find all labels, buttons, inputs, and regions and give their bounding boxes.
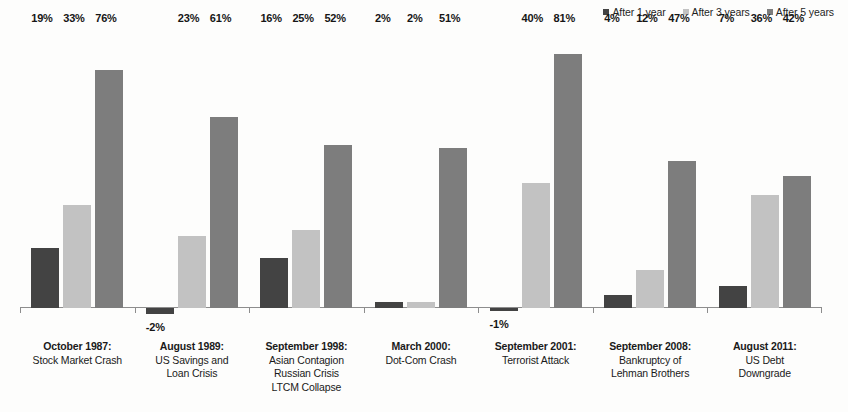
category-label-line: Terrorist Attack [478, 354, 593, 368]
bar[interactable]: 76% [95, 70, 123, 308]
bar-group: -2%23%61% [135, 26, 250, 308]
bar[interactable]: 4% [604, 295, 632, 308]
bar-slot: -2% [146, 26, 174, 308]
bar[interactable]: 52% [324, 145, 352, 308]
bar-value-label: 61% [210, 12, 231, 24]
bar-group: 4%12%47% [593, 26, 708, 308]
bar[interactable]: 81% [554, 54, 582, 308]
bar-slot: 52% [324, 26, 352, 308]
bar[interactable]: -1% [490, 308, 518, 311]
category-label: March 2000:Dot-Com Crash [364, 340, 479, 367]
bar-group-bars: -1%40%81% [478, 26, 593, 308]
bar[interactable]: 51% [439, 148, 467, 308]
bar-value-label: 36% [751, 12, 772, 24]
bar[interactable]: 12% [636, 270, 664, 308]
bar[interactable]: 61% [210, 117, 238, 308]
bar-value-label: -1% [490, 318, 509, 330]
bar-group: 7%36%42% [707, 26, 822, 308]
category-label: August 1989:US Savings andLoan Crisis [135, 340, 250, 381]
bar-slot: 42% [783, 26, 811, 308]
bar-value-label: 12% [636, 12, 657, 24]
bar-slot: -1% [490, 26, 518, 308]
category-label: September 2008:Bankruptcy ofLehman Broth… [593, 340, 708, 381]
bar-group: 16%25%52% [249, 26, 364, 308]
bar-slot: 36% [751, 26, 779, 308]
category-label-line: Bankruptcy of [593, 354, 708, 368]
axis-tick [20, 308, 21, 313]
bar-group-bars: 19%33%76% [20, 26, 135, 308]
bar-value-label: 40% [522, 12, 543, 24]
bar-group: 19%33%76% [20, 26, 135, 308]
bar-group: 2%2%51% [364, 26, 479, 308]
category-label-line: Stock Market Crash [20, 354, 135, 368]
bar-group-bars: 16%25%52% [249, 26, 364, 308]
bar-slot: 81% [554, 26, 582, 308]
category-label: September 2001:Terrorist Attack [478, 340, 593, 367]
category-label-line: US Debt [707, 354, 822, 368]
category-label-title: August 2011: [707, 340, 822, 354]
bar[interactable]: 36% [751, 195, 779, 308]
category-label-line: Russian Crisis [249, 367, 364, 381]
bar-slot: 33% [63, 26, 91, 308]
axis-tick [249, 308, 250, 313]
bar[interactable]: 40% [522, 183, 550, 308]
bar-slot: 7% [719, 26, 747, 308]
bar[interactable]: 19% [31, 248, 59, 308]
category-label-line: US Savings and [135, 354, 250, 368]
bar[interactable]: -2% [146, 308, 174, 314]
bar-value-label: 25% [292, 12, 313, 24]
category-label-title: August 1989: [135, 340, 250, 354]
bar-group: -1%40%81% [478, 26, 593, 308]
plot-area: 19%33%76%-2%23%61%16%25%52%2%2%51%-1%40%… [20, 26, 822, 308]
bar-slot: 25% [292, 26, 320, 308]
bar-value-label: 47% [668, 12, 689, 24]
bar-group-bars: 2%2%51% [364, 26, 479, 308]
category-label-title: October 1987: [20, 340, 135, 354]
axis-tick [135, 308, 136, 313]
bar-slot: 4% [604, 26, 632, 308]
category-label: September 1998:Asian ContagionRussian Cr… [249, 340, 364, 394]
bar-slot: 61% [210, 26, 238, 308]
bar-slot: 19% [31, 26, 59, 308]
bar[interactable]: 2% [375, 302, 403, 308]
category-label-title: September 2001: [478, 340, 593, 354]
category-label-line: Asian Contagion [249, 354, 364, 368]
bar[interactable]: 2% [407, 302, 435, 308]
bar[interactable]: 7% [719, 286, 747, 308]
category-label-line: LTCM Collapse [249, 381, 364, 395]
bar-group-bars: -2%23%61% [135, 26, 250, 308]
bar[interactable]: 16% [260, 258, 288, 308]
bar-value-label: 2% [375, 12, 391, 24]
legend-item[interactable]: After 3 years [683, 6, 750, 18]
category-label-title: September 1998: [249, 340, 364, 354]
category-axis-labels: October 1987:Stock Market CrashAugust 19… [20, 340, 822, 410]
bar-slot: 76% [95, 26, 123, 308]
bar-slot: 23% [178, 26, 206, 308]
category-label-line: Dot-Com Crash [364, 354, 479, 368]
bar-slot: 12% [636, 26, 664, 308]
bar-value-label: 76% [95, 12, 116, 24]
bar-group-bars: 4%12%47% [593, 26, 708, 308]
bar-value-label: 2% [407, 12, 423, 24]
bar-value-label: 7% [719, 12, 735, 24]
bar[interactable]: 25% [292, 230, 320, 308]
category-label-line: Loan Crisis [135, 367, 250, 381]
bar-value-label: 52% [324, 12, 345, 24]
bar[interactable]: 33% [63, 205, 91, 308]
axis-tick [364, 308, 365, 313]
category-label: August 2011:US DebtDowngrade [707, 340, 822, 381]
axis-tick [593, 308, 594, 313]
bar-slot: 51% [439, 26, 467, 308]
bar-slot: 40% [522, 26, 550, 308]
bar-value-label: 19% [31, 12, 52, 24]
bar-slot: 16% [260, 26, 288, 308]
bar[interactable]: 23% [178, 236, 206, 308]
bar[interactable]: 47% [668, 161, 696, 308]
bar-slot: 2% [375, 26, 403, 308]
axis-tick [707, 308, 708, 313]
bar-chart: After 1 yearAfter 3 yearsAfter 5 years 1… [0, 0, 848, 412]
bar-value-label: 4% [604, 12, 620, 24]
bar-value-label: 51% [439, 12, 460, 24]
bar-group-bars: 7%36%42% [707, 26, 822, 308]
bar[interactable]: 42% [783, 176, 811, 308]
